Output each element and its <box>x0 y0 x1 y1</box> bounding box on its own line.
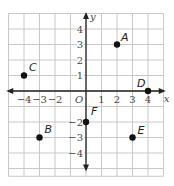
y-tick-label: −4 <box>68 148 83 159</box>
origin-label: O <box>75 94 83 105</box>
point-marker <box>114 41 120 47</box>
x-tick-label: −2 <box>48 94 63 105</box>
point-a: A <box>114 31 129 48</box>
y-axis-label: y <box>89 11 96 22</box>
point-label: A <box>120 31 129 44</box>
y-tick-label: −2 <box>68 117 83 128</box>
coordinate-plane: xyO−4−3−212344321−2−3−4 ABCDEF <box>0 0 174 186</box>
point-label: B <box>45 123 53 136</box>
y-tick-label: 1 <box>77 70 83 81</box>
x-tick-label: 2 <box>114 94 120 105</box>
point-marker <box>145 88 151 94</box>
x-tick-label: 4 <box>145 94 151 105</box>
y-tick-label: −3 <box>68 132 83 143</box>
x-tick-label: −3 <box>32 94 47 105</box>
x-tick-label: −4 <box>17 94 32 105</box>
point-e: E <box>129 124 144 141</box>
y-tick-label: 2 <box>77 55 83 66</box>
point-marker <box>36 134 42 140</box>
point-label: D <box>137 77 145 90</box>
x-tick-label: 1 <box>98 94 104 105</box>
point-label: F <box>91 105 98 118</box>
point-marker <box>21 72 27 78</box>
point-marker <box>129 134 135 140</box>
y-tick-label: 3 <box>77 39 83 50</box>
x-axis-arrow-left-icon <box>6 88 13 94</box>
y-tick-label: 4 <box>77 24 83 35</box>
x-axis-label: x <box>164 93 170 104</box>
point-marker <box>83 119 89 125</box>
point-label: E <box>138 124 145 137</box>
x-tick-label: 3 <box>129 94 135 105</box>
point-label: C <box>29 61 37 74</box>
axes <box>6 12 165 171</box>
